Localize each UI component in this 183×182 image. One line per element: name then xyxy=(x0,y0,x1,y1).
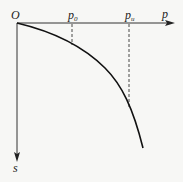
pu-label: pu xyxy=(124,8,135,23)
p-axis-label: p xyxy=(161,7,168,21)
p0-label: p0 xyxy=(67,8,78,23)
p-s-curve-diagram: O p0 pu p s xyxy=(0,0,183,182)
origin-label: O xyxy=(11,8,20,22)
diagram-canvas: O p0 pu p s xyxy=(0,0,183,182)
load-settlement-curve xyxy=(17,23,143,148)
s-axis-label: s xyxy=(13,161,18,175)
